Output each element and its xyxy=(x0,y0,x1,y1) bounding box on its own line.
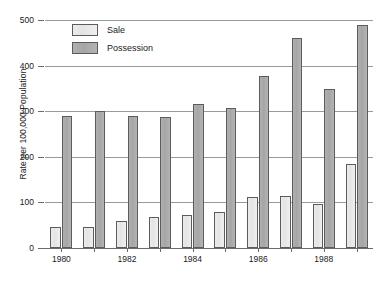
x-tick-mark-1982 xyxy=(127,249,128,252)
bar-sale-1984 xyxy=(182,215,193,248)
y-tick-label-500: 500 xyxy=(4,16,34,24)
x-tick-mark-1989 xyxy=(357,249,358,252)
bar-possession-1988 xyxy=(324,89,335,248)
x-tick-label-1988: 1988 xyxy=(304,255,344,264)
y-tick-mark-400 xyxy=(38,66,44,67)
legend-item-sale: Sale xyxy=(72,22,153,38)
bar-sale-1980 xyxy=(50,227,61,248)
bar-chart: Rate per 100,000 Population 010020030040… xyxy=(0,0,376,284)
y-tick-label-200: 200 xyxy=(4,153,34,161)
legend-swatch-sale xyxy=(72,24,98,36)
y-tick-mark-300 xyxy=(38,111,44,112)
bar-sale-1985 xyxy=(214,212,225,248)
bar-sale-1986 xyxy=(247,197,258,248)
legend-label-sale: Sale xyxy=(107,24,125,36)
y-tick-label-0: 0 xyxy=(4,244,34,252)
bar-possession-1986 xyxy=(259,76,270,248)
y-tick-label-100: 100 xyxy=(4,198,34,206)
bar-sale-1983 xyxy=(149,217,160,248)
bar-sale-1987 xyxy=(280,196,291,248)
x-tick-mark-1981 xyxy=(94,249,95,252)
bar-possession-1989 xyxy=(357,25,368,248)
bar-sale-1989 xyxy=(346,164,357,248)
y-tick-label-400: 400 xyxy=(4,62,34,70)
x-tick-mark-1988 xyxy=(324,249,325,252)
y-tick-mark-200 xyxy=(38,157,44,158)
x-tick-mark-1980 xyxy=(61,249,62,252)
bar-possession-1981 xyxy=(95,111,106,248)
bar-possession-1985 xyxy=(226,108,237,248)
y-tick-mark-500 xyxy=(38,20,44,21)
bar-sale-1982 xyxy=(116,221,127,248)
x-tick-mark-1986 xyxy=(258,249,259,252)
chart-legend: Sale Possession xyxy=(72,22,153,58)
x-tick-mark-1985 xyxy=(225,249,226,252)
x-tick-mark-1984 xyxy=(193,249,194,252)
legend-swatch-possession xyxy=(72,42,98,54)
bar-sale-1981 xyxy=(83,227,94,248)
x-tick-label-1982: 1982 xyxy=(107,255,147,264)
bar-possession-1984 xyxy=(193,104,204,248)
x-tick-mark-1983 xyxy=(160,249,161,252)
legend-item-possession: Possession xyxy=(72,40,153,56)
gridline-400 xyxy=(45,66,373,67)
bar-possession-1983 xyxy=(160,117,171,248)
legend-label-possession: Possession xyxy=(107,42,153,54)
y-tick-label-300: 300 xyxy=(4,107,34,115)
gridline-500 xyxy=(45,20,373,21)
bar-possession-1980 xyxy=(62,116,73,248)
bar-sale-1988 xyxy=(313,204,324,248)
x-tick-mark-1987 xyxy=(291,249,292,252)
bar-possession-1987 xyxy=(292,38,303,248)
y-tick-mark-100 xyxy=(38,202,44,203)
bar-possession-1982 xyxy=(128,116,139,248)
x-tick-label-1986: 1986 xyxy=(238,255,278,264)
y-axis-title: Rate per 100,000 Population xyxy=(16,0,30,248)
x-tick-label-1984: 1984 xyxy=(173,255,213,264)
x-tick-label-1980: 1980 xyxy=(41,255,81,264)
